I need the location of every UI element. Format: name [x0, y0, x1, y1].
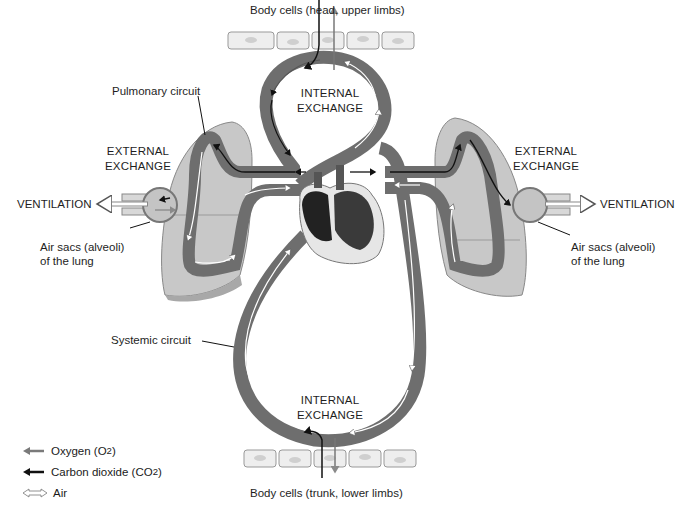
air-double-arrow-icon	[22, 488, 48, 498]
caption-line: EXCHANGE	[508, 159, 584, 174]
caption-line: EXCHANGE	[100, 159, 176, 174]
caption-line: Air sacs (alveoli)	[40, 240, 124, 254]
ventilation-left-label: VENTILATION	[17, 197, 92, 211]
caption-line: INTERNAL	[290, 393, 370, 408]
external-exchange-right-label: EXTERNAL EXCHANGE	[508, 144, 584, 174]
caption-line: EXTERNAL	[508, 144, 584, 159]
bottom-body-cells	[244, 450, 416, 467]
air-sacs-left-leader	[130, 222, 150, 228]
legend: Oxygen (O2) Carbon dioxide (CO2) Air	[22, 440, 162, 503]
systemic-circuit-label: Systemic circuit	[111, 333, 191, 347]
internal-exchange-top-label: INTERNAL EXCHANGE	[290, 86, 370, 116]
upper-systemic-loop	[266, 57, 385, 185]
air-sacs-right-leader	[538, 222, 570, 235]
caption-line: EXCHANGE	[290, 408, 370, 423]
caption-line: Air sacs (alveoli)	[571, 240, 655, 254]
legend-item-oxygen: Oxygen (O2)	[22, 440, 162, 461]
caption-line: of the lung	[40, 254, 124, 268]
pulmonary-circuit-leader	[198, 96, 205, 135]
top-body-cells	[228, 32, 414, 49]
left-alveolus	[100, 188, 177, 222]
caption-line: of the lung	[571, 254, 655, 268]
legend-item-air: Air	[22, 482, 162, 503]
legend-label: Oxygen (O	[51, 445, 107, 457]
legend-item-carbon-dioxide: Carbon dioxide (CO2)	[22, 461, 162, 482]
legend-suffix: )	[158, 466, 162, 478]
legend-label: Carbon dioxide (CO	[51, 466, 153, 478]
caption-line: EXCHANGE	[290, 101, 370, 116]
external-exchange-left-label: EXTERNAL EXCHANGE	[100, 144, 176, 174]
ventilation-right-label: VENTILATION	[600, 197, 675, 211]
air-sacs-right-label: Air sacs (alveoli) of the lung	[571, 240, 655, 268]
caption-line: EXTERNAL	[100, 144, 176, 159]
right-alveolus	[513, 188, 592, 222]
caption-line: INTERNAL	[290, 86, 370, 101]
body-cells-bottom-label: Body cells (trunk, lower limbs)	[250, 486, 403, 500]
legend-suffix: )	[112, 445, 116, 457]
systemic-circuit-leader	[202, 341, 234, 347]
legend-label: Air	[53, 487, 67, 499]
oxygen-arrow-icon	[22, 446, 46, 456]
body-cells-top-label: Body cells (head, upper limbs)	[250, 3, 405, 17]
carbon-dioxide-arrow-icon	[22, 467, 46, 477]
air-sacs-left-label: Air sacs (alveoli) of the lung	[40, 240, 124, 268]
pulmonary-circuit-label: Pulmonary circuit	[112, 84, 200, 98]
internal-exchange-bottom-label: INTERNAL EXCHANGE	[290, 393, 370, 423]
